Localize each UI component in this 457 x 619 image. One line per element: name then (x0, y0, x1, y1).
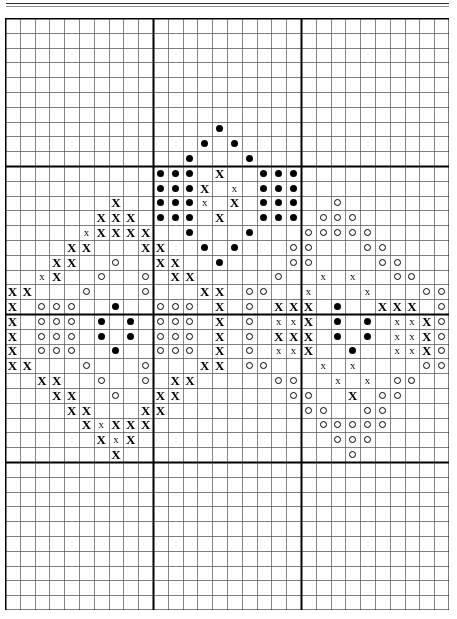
pattern-chart-page: XXxXxXXXXXxXXXXXXXXXXXXxXXXxxXXXXxxXXXXX… (0, 0, 457, 619)
chart-grid-canvas[interactable] (5, 18, 449, 610)
cross-stitch-chart[interactable]: XXxXxXXXXXxXXXXXXXXXXXXxXXXxxXXXXxxXXXXX… (5, 18, 449, 610)
top-border-rule (6, 3, 449, 7)
